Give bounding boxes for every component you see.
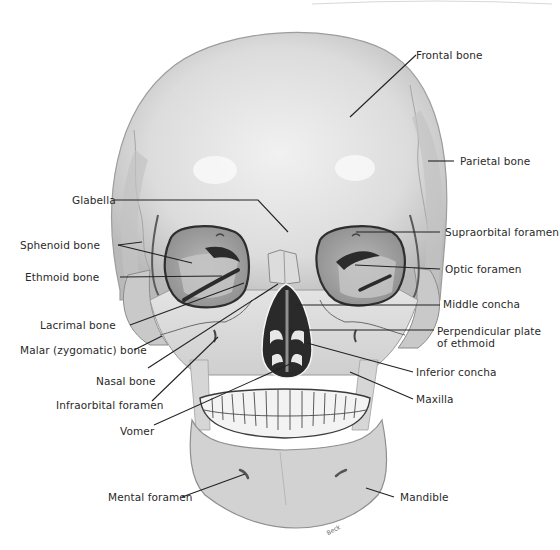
label-text: Middle concha <box>443 298 520 310</box>
label-text: Perpendicular plate <box>437 325 541 337</box>
skull-anterior-diagram: GlabellaSphenoid boneEthmoid boneLacrima… <box>0 0 560 550</box>
label-lacrimal-bone: Lacrimal bone <box>40 319 116 331</box>
label-text-line2: of ethmoid <box>437 337 495 349</box>
label-inferior-concha: Inferior concha <box>416 366 496 378</box>
label-text: Glabella <box>72 194 116 206</box>
label-parietal-bone: Parietal bone <box>460 155 530 167</box>
label-text: Sphenoid bone <box>20 239 100 251</box>
label-text: Inferior concha <box>416 366 496 378</box>
label-text: Vomer <box>120 425 154 437</box>
label-infraorbital-foramen: Infraorbital foramen <box>56 399 164 411</box>
label-middle-concha: Middle concha <box>443 298 520 310</box>
label-optic-foramen: Optic foramen <box>445 263 522 275</box>
teeth <box>200 389 370 438</box>
left-orbit <box>165 226 249 307</box>
label-maxilla: Maxilla <box>416 393 454 405</box>
label-text: Mandible <box>400 491 449 503</box>
label-malar-zygomatic-bone: Malar (zygomatic) bone <box>20 344 147 356</box>
label-supraorbital-foramen: Supraorbital foramen <box>445 226 559 238</box>
label-text: Frontal bone <box>416 49 483 61</box>
label-text: Maxilla <box>416 393 454 405</box>
label-nasal-bone: Nasal bone <box>96 375 156 387</box>
label-glabella: Glabella <box>72 194 116 206</box>
label-text: Infraorbital foramen <box>56 399 164 411</box>
label-text: Lacrimal bone <box>40 319 116 331</box>
label-mandible: Mandible <box>400 491 449 503</box>
label-frontal-bone: Frontal bone <box>416 49 483 61</box>
label-text: Mental foramen <box>108 491 193 503</box>
label-text: Supraorbital foramen <box>445 226 559 238</box>
label-mental-foramen: Mental foramen <box>108 491 193 503</box>
label-text: Nasal bone <box>96 375 156 387</box>
label-sphenoid-bone: Sphenoid bone <box>20 239 100 251</box>
label-perpendicular-plate-of-ethmoid: Perpendicular plateof ethmoid <box>437 325 541 349</box>
label-vomer: Vomer <box>120 425 154 437</box>
label-text: Optic foramen <box>445 263 522 275</box>
label-text: Malar (zygomatic) bone <box>20 344 147 356</box>
label-text: Ethmoid bone <box>25 271 99 283</box>
label-ethmoid-bone: Ethmoid bone <box>25 271 99 283</box>
label-text: Parietal bone <box>460 155 530 167</box>
